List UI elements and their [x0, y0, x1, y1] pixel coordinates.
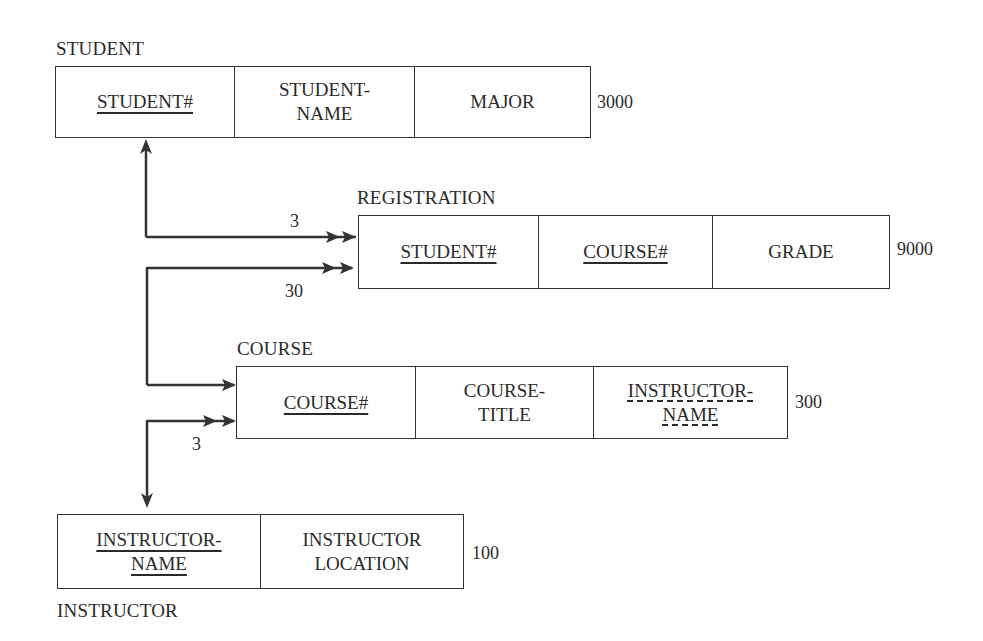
column-label-line2: NAME	[131, 553, 187, 574]
record-count-instructor: 100	[472, 544, 499, 562]
column-grade: GRADE	[713, 216, 889, 288]
column-label: COURSE#	[583, 240, 667, 264]
table-title-instructor: INSTRUCTOR	[57, 601, 178, 620]
column-label-line1: COURSE-	[464, 380, 545, 401]
cardinality-instructor-course: 3	[192, 435, 201, 453]
column-student-name: STUDENT-NAME	[235, 67, 415, 137]
connector-student-registration	[140, 139, 356, 243]
table-title-course: COURSE	[237, 339, 313, 358]
connector-instructor-course	[141, 415, 236, 508]
column-label-line2: NAME	[297, 103, 353, 124]
table-student: STUDENT# STUDENT-NAME MAJOR	[55, 66, 591, 138]
column-label-line1: INSTRUCTOR-	[628, 380, 753, 401]
cardinality-course-registration: 30	[285, 282, 303, 300]
column-label-line2: LOCATION	[314, 553, 409, 574]
record-count-course: 300	[795, 393, 822, 411]
column-instructor-location: INSTRUCTORLOCATION	[261, 515, 463, 588]
column-registration-course-id: COURSE#	[539, 216, 713, 288]
column-label: MAJOR	[470, 90, 534, 114]
table-registration: STUDENT# COURSE# GRADE	[358, 215, 890, 289]
record-count-student: 3000	[597, 93, 633, 111]
column-course-id: COURSE#	[237, 367, 416, 438]
column-course-title: COURSE-TITLE	[416, 367, 594, 438]
column-label: GRADE	[768, 240, 833, 264]
column-label-line2: NAME	[663, 404, 719, 425]
table-title-student: STUDENT	[56, 39, 144, 58]
column-label: COURSE#	[284, 391, 368, 415]
table-title-registration: REGISTRATION	[357, 188, 496, 207]
record-count-registration: 9000	[897, 240, 933, 258]
column-label: STUDENT#	[97, 90, 193, 114]
table-course: COURSE# COURSE-TITLE INSTRUCTOR-NAME	[236, 366, 788, 439]
column-label-line1: INSTRUCTOR-	[96, 529, 221, 550]
column-label-line2: TITLE	[478, 404, 531, 425]
column-label: STUDENT#	[400, 240, 496, 264]
column-label-line1: INSTRUCTOR	[303, 529, 422, 550]
column-registration-student-id: STUDENT#	[359, 216, 539, 288]
column-course-instructor-name: INSTRUCTOR-NAME	[594, 367, 787, 438]
cardinality-student-registration: 3	[290, 212, 299, 230]
column-label-line1: STUDENT-	[279, 79, 370, 100]
column-major: MAJOR	[415, 67, 590, 137]
table-instructor: INSTRUCTOR-NAME INSTRUCTORLOCATION	[57, 514, 464, 589]
column-instructor-name: INSTRUCTOR-NAME	[58, 515, 261, 588]
column-student-id: STUDENT#	[56, 67, 235, 137]
